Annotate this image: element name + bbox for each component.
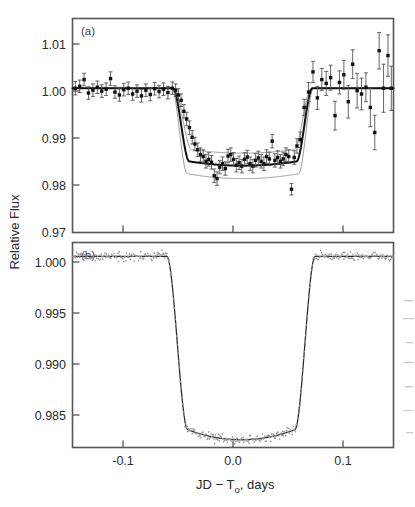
data-point [125,260,127,262]
panel-b-xtick-0.1: 0.1 [334,454,351,468]
data-point [155,255,157,257]
data-point [262,433,264,435]
data-point [308,296,310,298]
data-point [357,259,359,261]
data-point [373,252,375,254]
data-point [128,257,130,259]
data-point [289,432,291,434]
data-point [138,256,140,258]
data-point [286,427,288,429]
data-point [232,436,234,438]
panel-b-xticks [123,441,343,448]
data-point [245,439,247,441]
data-point [312,264,314,266]
data-point [75,257,77,259]
data-point [316,255,318,257]
data-point [212,434,214,436]
data-point [74,255,76,257]
data-point-with-errorbar [377,32,381,69]
data-point [285,435,287,437]
data-point [204,435,206,437]
data-point-with-errorbar [382,64,386,112]
data-point [362,254,364,256]
data-point [346,256,348,258]
data-point [203,433,205,435]
data-point [321,252,323,254]
data-point [302,370,304,372]
data-point [250,434,252,436]
data-point [85,257,87,259]
data-point [333,257,335,259]
data-point [102,259,104,261]
data-point [222,438,224,440]
data-point-with-errorbar [117,89,121,102]
data-point-with-errorbar [185,112,189,125]
data-point [287,431,289,433]
data-point [297,425,299,427]
data-point [188,428,190,430]
data-point [340,256,342,258]
panel-b-ytick-0.995: 0.995 [35,307,66,321]
data-point [273,434,275,436]
data-point [379,256,381,258]
data-point [156,257,158,259]
panel-a-ytick-0.99: 0.99 [42,132,66,146]
data-point [286,430,288,432]
data-point [281,435,283,437]
data-point [256,435,258,437]
data-point [309,282,311,284]
data-point [171,274,173,276]
data-point [319,256,321,258]
data-point [331,258,333,260]
data-point [284,432,286,434]
data-point [248,442,250,444]
data-point-with-errorbar [95,81,99,94]
data-point [77,256,79,258]
data-point [122,258,124,260]
data-point-with-errorbar [337,71,341,94]
data-point [353,259,355,261]
data-point-with-errorbar [368,88,372,126]
data-point [264,436,266,438]
data-point [294,428,296,430]
transit-lightcurve-figure: 1.01 1.00 0.99 0.98 0.97 (a) 1.000 [0,0,415,507]
data-point-with-errorbar [364,73,368,102]
data-point [118,251,120,253]
data-point-with-errorbar [135,85,139,98]
data-point [168,261,170,263]
data-point [241,438,243,440]
data-point [180,381,182,383]
panel-b-best-fit-curve [73,256,394,439]
svg-text:JD − To, days: JD − To, days [196,477,275,495]
data-point [298,412,300,414]
data-point [210,433,212,435]
data-point [327,256,329,258]
data-point [78,254,80,256]
data-point [174,319,176,321]
data-point-with-errorbar [148,88,152,101]
data-point [94,260,96,262]
data-point [129,253,131,255]
panel-b-model-curve [73,256,394,439]
data-point [254,438,256,440]
data-point [236,437,238,439]
data-point-with-errorbar [153,82,157,95]
data-point [328,257,330,259]
data-point [314,258,316,260]
data-point [79,256,81,258]
data-point [378,258,380,260]
data-point [119,254,121,256]
data-point [315,257,317,259]
panel-b: 1.000 0.995 0.990 0.985 (b) -0.1 0.0 0.1 [35,243,394,469]
data-point [170,272,172,274]
data-point [113,252,115,254]
data-point [214,443,216,445]
data-point [114,257,116,259]
data-point [107,256,109,258]
data-point [194,429,196,431]
data-point [300,392,302,394]
data-point [115,255,117,257]
data-point [271,433,273,435]
data-point [108,254,110,256]
data-point [233,440,235,442]
